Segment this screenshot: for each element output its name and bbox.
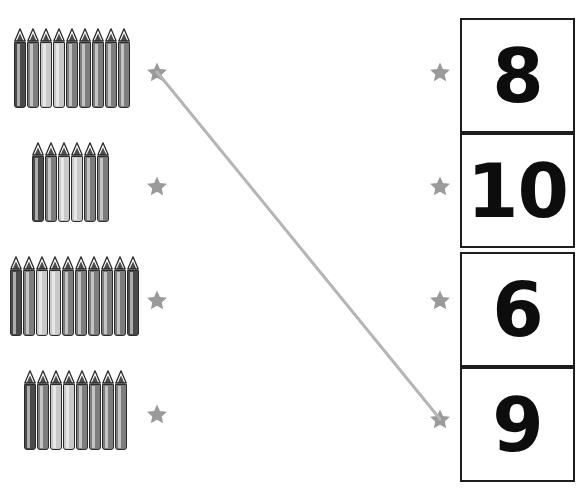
crayon (24, 370, 36, 450)
crayon (32, 142, 44, 222)
crayon-group-row-3 (10, 256, 140, 336)
crayon-group-row-4 (24, 370, 128, 450)
number-label: 6 (492, 273, 543, 347)
crayon (71, 142, 83, 222)
crayon (76, 370, 88, 450)
match-line-1[interactable] (157, 72, 440, 419)
crayon (40, 28, 52, 108)
star-icon-left-2[interactable] (146, 175, 168, 197)
crayon (118, 28, 130, 108)
crayon (36, 256, 48, 336)
crayon (75, 256, 87, 336)
crayon-group-row-1 (14, 28, 131, 108)
number-label: 8 (492, 39, 543, 113)
number-box-1[interactable]: 8 (460, 18, 575, 133)
crayon (37, 370, 49, 450)
crayon (89, 370, 101, 450)
crayon (45, 142, 57, 222)
crayon (23, 256, 35, 336)
crayon (115, 370, 127, 450)
crayon (127, 256, 139, 336)
crayon (92, 28, 104, 108)
crayon (49, 256, 61, 336)
number-box-2[interactable]: 10 (460, 133, 575, 248)
star-icon-right-4[interactable] (429, 408, 451, 430)
number-box-3[interactable]: 6 (460, 252, 575, 367)
crayon (27, 28, 39, 108)
crayon (50, 370, 62, 450)
crayon (84, 142, 96, 222)
worksheet-canvas: 81069 (0, 0, 585, 491)
crayon (10, 256, 22, 336)
number-label: 10 (467, 154, 568, 228)
crayon (102, 370, 114, 450)
star-icon-right-1[interactable] (429, 61, 451, 83)
crayon-group-row-2 (32, 142, 110, 222)
crayon (88, 256, 100, 336)
crayon (14, 28, 26, 108)
crayon (58, 142, 70, 222)
crayon (97, 142, 109, 222)
star-icon-left-1[interactable] (146, 61, 168, 83)
star-icon-right-2[interactable] (429, 175, 451, 197)
crayon (62, 256, 74, 336)
crayon (114, 256, 126, 336)
crayon (101, 256, 113, 336)
crayon (79, 28, 91, 108)
star-icon-right-3[interactable] (429, 289, 451, 311)
crayon (63, 370, 75, 450)
crayon (66, 28, 78, 108)
number-box-4[interactable]: 9 (460, 367, 575, 482)
number-label: 9 (492, 388, 543, 462)
crayon (105, 28, 117, 108)
crayon (53, 28, 65, 108)
star-icon-left-4[interactable] (146, 403, 168, 425)
star-icon-left-3[interactable] (146, 289, 168, 311)
